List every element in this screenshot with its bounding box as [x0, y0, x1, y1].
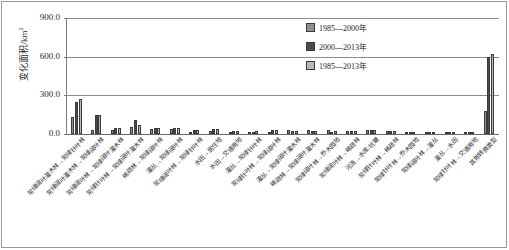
y-tick-label-0: 0.0: [14, 128, 60, 138]
bar-group: [111, 18, 122, 134]
bar: [311, 131, 314, 134]
bar: [350, 131, 353, 134]
bar: [373, 130, 376, 134]
bar-group: [91, 18, 102, 134]
bar: [79, 99, 82, 134]
legend-label: 2000—2013年: [319, 41, 367, 52]
bar: [484, 111, 487, 134]
x-axis-labels: 常绿阔叶灌木林→常绿针叶林常绿阔叶灌木林→常绿阔叶林常绿阔叶林→常绿阔叶灌木林常…: [66, 136, 508, 248]
bar: [334, 131, 337, 134]
bar: [138, 125, 141, 134]
bar: [95, 115, 98, 134]
bar: [314, 131, 317, 134]
chart-figure: 变化面积/km2 0.0300.0600.0900.0 常绿阔叶灌木林→常绿针叶…: [0, 0, 509, 250]
legend-label: 1985—2013年: [319, 60, 367, 71]
bar: [271, 130, 274, 134]
bar-group: [209, 18, 220, 134]
bar: [236, 131, 239, 134]
bar: [428, 132, 431, 134]
bar-group: [484, 18, 495, 134]
bar: [75, 102, 78, 134]
bar-group: [444, 18, 455, 134]
bar: [91, 130, 94, 134]
bar: [134, 120, 137, 134]
bar: [487, 57, 490, 134]
bar-group: [150, 18, 161, 134]
bar-group: [268, 18, 279, 134]
bar: [130, 127, 133, 134]
y-tick-label-900: 900.0: [14, 12, 60, 22]
bar: [118, 128, 121, 134]
bar: [330, 132, 333, 134]
bar: [216, 129, 219, 134]
bar: [252, 132, 255, 134]
y-tick-label-600: 600.0: [14, 51, 60, 61]
bar-group: [189, 18, 200, 134]
bar: [452, 132, 455, 134]
bar: [425, 132, 428, 134]
bar: [432, 132, 435, 134]
bar-group: [464, 18, 475, 134]
bar: [229, 132, 232, 134]
bar-group: [170, 18, 181, 134]
chart-legend: 1985—2000年2000—2013年1985—2013年: [306, 19, 426, 76]
bar: [287, 130, 290, 134]
bar: [464, 132, 467, 134]
bar: [346, 131, 349, 134]
bar: [255, 131, 258, 134]
legend-item[interactable]: 1985—2000年: [306, 19, 426, 35]
bar: [173, 128, 176, 134]
bar-group: [228, 18, 239, 134]
bar-series-container: [67, 18, 499, 134]
legend-label: 1985—2000年: [319, 22, 367, 33]
bar: [327, 130, 330, 134]
bar: [386, 131, 389, 134]
bar: [471, 132, 474, 134]
bar: [307, 130, 310, 134]
bar: [354, 131, 357, 134]
bar: [468, 132, 471, 134]
bar: [248, 132, 251, 134]
gridline-0: [67, 134, 499, 135]
bar: [98, 115, 101, 134]
bar: [170, 129, 173, 134]
y-tick-label-300: 300.0: [14, 89, 60, 99]
bar: [196, 130, 199, 134]
bar: [177, 128, 180, 134]
legend-swatch-icon: [306, 61, 315, 70]
bar: [209, 131, 212, 134]
bar: [389, 131, 392, 134]
bar: [291, 131, 294, 134]
bar: [154, 128, 157, 134]
bar: [393, 131, 396, 134]
bar: [448, 132, 451, 134]
bar: [445, 132, 448, 134]
legend-item[interactable]: 2000—2013年: [306, 38, 426, 54]
y-tick-mark-0: [64, 134, 67, 135]
bar: [71, 117, 74, 134]
bar-group: [287, 18, 298, 134]
plot-area: 0.0300.0600.0900.0: [66, 18, 498, 134]
bar: [212, 129, 215, 134]
bar-group: [248, 18, 259, 134]
bar-group: [71, 18, 82, 134]
bar: [193, 130, 196, 134]
bar: [409, 132, 412, 134]
bar: [370, 130, 373, 134]
bar: [150, 129, 153, 134]
bar: [405, 132, 408, 134]
bar: [295, 131, 298, 134]
bar: [366, 130, 369, 134]
bar: [491, 54, 494, 134]
bar: [157, 128, 160, 134]
legend-swatch-icon: [306, 42, 315, 51]
bar: [275, 130, 278, 134]
bar: [111, 130, 114, 135]
legend-item[interactable]: 1985—2013年: [306, 57, 426, 73]
bar: [412, 132, 415, 134]
bar: [114, 128, 117, 134]
legend-swatch-icon: [306, 23, 315, 32]
bar: [268, 132, 271, 134]
bar-group: [425, 18, 436, 134]
bar-group: [130, 18, 141, 134]
